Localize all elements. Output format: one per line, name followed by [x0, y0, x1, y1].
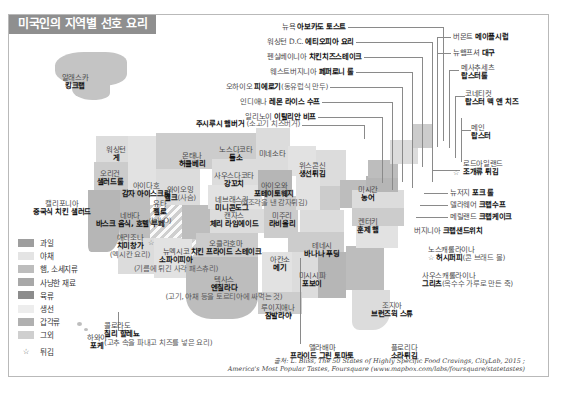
legend-item-fruit: 과일: [18, 236, 78, 249]
label-illinois: 일리노이 이탈리안 비프: [245, 113, 316, 121]
fried-star-icon-north-carolina: ☆: [428, 254, 434, 262]
label-rhode-island: ☆ 로드아일랜드 조개류 튀김: [463, 160, 503, 177]
label-north-carolina: 노스캐롤라이나 ☆ 허시퍼피(콘 브래드 볼): [428, 246, 505, 263]
label-north-dakota: 노스다코타 들소: [219, 146, 252, 163]
label-south-carolina: 사우스캐롤라이나 그리츠(옥수수 가루로 만든 죽): [422, 272, 513, 289]
leader-line-new-jersey: [424, 193, 448, 194]
leader-line-maine: [461, 130, 471, 131]
label-indiana: 인디애나 레몬 라이스 수프: [240, 98, 320, 106]
leader-line-west-virginia: [356, 72, 412, 73]
label-maryland: 메릴랜드 크랩케이크: [450, 213, 512, 221]
label-mississippi: ☆ 미시시피 포보이: [299, 272, 326, 289]
leader-line-massachusetts-v: [449, 70, 450, 148]
legend-item-fried: ☆ 튀김: [18, 345, 78, 358]
label-kansas: 캔자스 체리 라임에이드: [210, 212, 259, 229]
leader-line-juicy-lucy: [302, 125, 364, 126]
leader-line-delaware: [420, 205, 448, 206]
label-vermont: 버몬트 메이플시럽: [453, 33, 508, 41]
label-georgia: 조지아 브런즈윅 스튜: [371, 302, 413, 319]
leader-line-ne-v: [437, 37, 438, 147]
label-connecticut: 코네티컷 랍스터 맥 앤 치즈: [465, 90, 518, 107]
leader-line-maryland: [416, 217, 448, 218]
hawaii-shape-2: [84, 328, 88, 331]
label-colorado: 콜로라도 칠리 할레뇨 (고추 속을 파내고 치즈를 넣은 요리): [104, 322, 212, 347]
legend-item-vegetable: 야채: [18, 249, 78, 262]
legend-swatch-game: [18, 278, 34, 286]
label-massachusetts: 메사추세츠 랍스터롤: [461, 64, 494, 81]
infographic-frame: 미국인의 지역별 선호 요리: [0, 0, 561, 397]
label-virginia: 버지니아 크랩샌드위치: [414, 227, 483, 235]
leader-line-vermont: [437, 37, 451, 38]
label-new-hampshire: 뉴햄프셔 대구: [453, 49, 495, 57]
label-alaska: 알래스카 킹크랩: [62, 74, 89, 91]
leader-line-dc-v: [432, 42, 433, 182]
georgia-shape: [346, 246, 384, 290]
label-michigan: 미시간 농어: [358, 186, 378, 203]
leader-line-dc: [356, 42, 432, 43]
fried-star-icon-mississippi: ☆: [321, 271, 327, 279]
label-delaware: 델라웨어 크랩수프: [450, 201, 505, 209]
leader-line-indiana: [322, 102, 392, 103]
leader-line-new-york-v: [443, 27, 444, 141]
label-wisconsin: 위스콘신 생선튀김: [299, 162, 326, 179]
label-ohio: 오하이오 피에로기(동유럽식 만두): [226, 83, 328, 91]
label-texas: 텍사스 엔칠라다 (고기, 야채 등을 토르티야에 싸먹는 것): [166, 276, 283, 301]
leader-line-new-hampshire: [437, 53, 451, 54]
source-line-1: 출처: L. Bliss, The 50 States of Highly Sp…: [150, 357, 525, 365]
fried-star-icon-new-mexico: ☆: [148, 239, 154, 247]
leader-line-connecticut-v: [455, 96, 456, 158]
legend-swatch-ham-sausage: [18, 265, 34, 273]
label-maine: 메인 랍스터: [471, 124, 491, 141]
leader-line-juicy-lucy-v: [364, 125, 365, 139]
legend-swatch-other: [18, 331, 34, 339]
leader-line-connecticut: [455, 96, 465, 97]
legend-item-meat: 육류: [18, 289, 78, 302]
label-west-virginia: 웨스트버지니아 페퍼로니 롤: [270, 68, 354, 76]
legend-item-shellfish: 갑각류: [18, 315, 78, 328]
leader-line-new-york: [348, 27, 443, 28]
legend-swatch-meat: [18, 291, 34, 299]
legend-swatch-shellfish: [18, 318, 34, 326]
label-utah: 유타 젤로 (Jell-O): [149, 200, 172, 225]
fried-star-icon-rhode-island: ☆: [453, 169, 459, 177]
label-washington: 워싱턴 게: [106, 146, 126, 163]
legend-item-ham-sausage: 햄, 소세지류: [18, 262, 78, 275]
label-missouri: 미주리 라비올리: [269, 212, 296, 229]
legend-item-game: 사냥한 재료: [18, 276, 78, 289]
label-washington-dc: 워싱턴 D.C. 에티오피아 요리: [267, 38, 354, 46]
kentucky-shape: [300, 210, 344, 232]
page-title: 미국인의 지역별 선호 요리: [9, 15, 156, 34]
label-oregon: 오리건 샐러드롤: [97, 170, 124, 187]
source-citation: 출처: L. Bliss, The 50 States of Highly Sp…: [150, 357, 525, 374]
leader-line-massachusetts: [449, 70, 459, 71]
label-pennsylvania: 펜실베이니아 치킨치즈스테이크: [267, 53, 362, 61]
legend: 과일 야채 햄, 소세지류 사냥한 재료 육류 생선 갑각류 그외: [18, 236, 78, 358]
label-minnesota: 미네소타: [259, 150, 286, 158]
label-iowa: 아이오와 포테이토웨지 (4조각을 낸 감자튀김): [241, 182, 308, 207]
legend-swatch-vegetable: [18, 252, 34, 260]
label-new-york: 뉴욕 아보카도 토스트: [282, 23, 346, 31]
label-oklahoma: 오클라호마 치킨 프라이드 스테이크: [191, 240, 262, 257]
leader-line-maine-v: [461, 118, 462, 162]
label-new-jersey: 뉴저지 포크 롤: [450, 189, 494, 197]
hawaii-shape: [77, 322, 82, 326]
label-tennessee: 테네시 바나나 푸딩: [304, 242, 339, 259]
leader-line-indiana-v: [392, 102, 393, 190]
source-line-2: America's Most Popular Tastes, Foursquar…: [150, 365, 525, 373]
label-california: 캘리포니아 중국식 치킨 샐러드: [33, 200, 91, 217]
label-arkansas: 아칸소 메기: [270, 256, 290, 273]
label-louisiana: 루이지애나 잠발라야: [261, 304, 294, 321]
leader-line-pennsylvania-v: [422, 57, 423, 167]
label-idaho: 아이다호 감자 아이스크림: [122, 182, 171, 199]
legend-item-other: 그외: [18, 328, 78, 341]
label-kentucky: 켄터키 훈제 햄: [357, 218, 379, 235]
legend-swatch-fruit: [18, 239, 34, 247]
leader-line-illinois-v: [382, 117, 383, 183]
label-montana: 몬태나 허클베리: [179, 152, 206, 169]
leader-line-ohio: [330, 87, 402, 88]
leader-line-pennsylvania: [364, 57, 422, 58]
fried-star-icon: ☆: [18, 347, 34, 356]
leader-line-ohio-v: [402, 87, 403, 182]
leader-line-west-virginia-v: [412, 72, 413, 188]
leader-line-illinois: [318, 117, 382, 118]
